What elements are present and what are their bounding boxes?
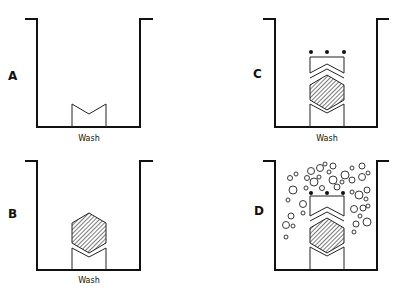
capture-block-a [72, 104, 106, 127]
caption-b: Wash [78, 276, 100, 285]
panel-c: C Wash [253, 19, 389, 143]
label-dots-d [309, 191, 345, 195]
diagram-canvas: A Wash B Wash C Wash D [0, 0, 401, 295]
panel-label-c: C [253, 67, 262, 81]
well-c [263, 19, 389, 127]
molecule-hexagon-d [310, 218, 344, 253]
molecule-hexagon-c [310, 75, 344, 110]
diagram-stage: A Wash B Wash C Wash D [0, 0, 401, 295]
molecule-hexagon-b [72, 213, 106, 253]
panel-label-a: A [8, 69, 18, 83]
panel-d: D [254, 161, 389, 270]
caption-c: Wash [316, 134, 338, 143]
well-a [25, 19, 153, 127]
label-dots-c [309, 50, 346, 54]
panel-label-b: B [8, 207, 17, 221]
detection-block-d [310, 196, 344, 221]
panel-b: B Wash [8, 161, 153, 285]
caption-a: Wash [78, 134, 100, 143]
panel-label-d: D [254, 204, 264, 218]
well-d [263, 161, 389, 270]
panel-a: A Wash [8, 19, 153, 143]
